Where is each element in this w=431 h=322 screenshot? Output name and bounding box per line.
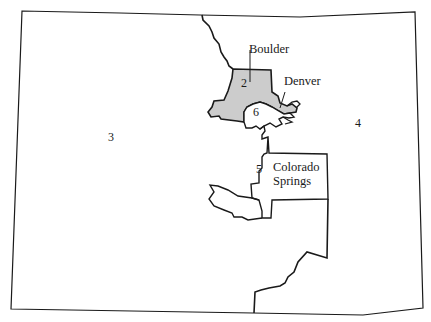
district-map [0,0,431,322]
city-label-colorado: Colorado [273,161,320,174]
district-label-2: 2 [241,77,247,89]
district-label-5: 5 [256,163,262,175]
city-label-denver: Denver [284,75,321,88]
district-label-4: 4 [355,117,361,129]
state-outline [11,11,423,315]
district-label-3: 3 [108,131,114,143]
city-label-boulder: Boulder [249,43,289,56]
city-label-springs: Springs [273,175,311,188]
district-label-6: 6 [253,106,259,118]
